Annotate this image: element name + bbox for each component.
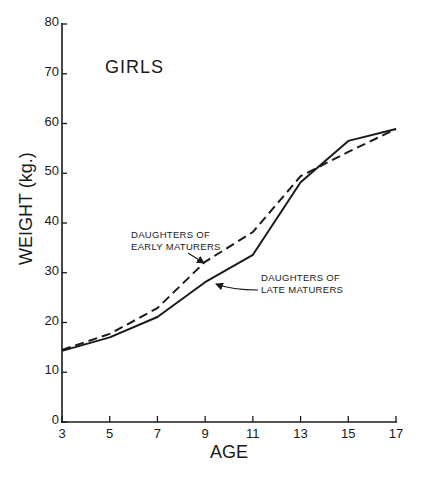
x-tick-label: 15	[341, 426, 355, 441]
x-axis: 357911131517	[58, 416, 403, 441]
x-tick-label: 7	[154, 426, 161, 441]
y-tick-label: 20	[45, 313, 59, 328]
annotation-early-line2: EARLY MATURERS	[131, 241, 221, 252]
annotation-late-line2: LATE MATURERS	[261, 284, 343, 295]
x-tick-label: 17	[389, 426, 403, 441]
x-tick-label: 3	[58, 426, 65, 441]
x-axis-ticks: 357911131517	[58, 416, 403, 441]
y-tick-label: 50	[45, 163, 59, 178]
x-tick-label: 11	[246, 426, 260, 441]
y-tick-label: 10	[45, 362, 59, 377]
annotation-late-arrow-icon	[216, 284, 258, 290]
y-axis-ticks: 01020304050607080	[45, 14, 67, 427]
annotation-early-maturers: DAUGHTERS OF EARLY MATURERS	[131, 229, 221, 263]
weight-by-age-chart: 01020304050607080 357911131517 GIRLS AGE…	[0, 0, 421, 477]
y-tick-label: 30	[45, 263, 59, 278]
x-tick-label: 5	[106, 426, 113, 441]
y-axis-title: WEIGHT (kg.)	[16, 152, 36, 265]
y-tick-label: 0	[52, 412, 59, 427]
y-tick-label: 40	[45, 213, 59, 228]
series-early-maturers-line	[62, 129, 396, 350]
x-tick-label: 13	[293, 426, 307, 441]
x-tick-label: 9	[202, 426, 209, 441]
annotation-late-maturers: DAUGHTERS OF LATE MATURERS	[216, 272, 343, 295]
y-tick-label: 70	[45, 64, 59, 79]
series-late-maturers-line	[62, 129, 396, 351]
annotation-early-line1: DAUGHTERS OF	[131, 229, 210, 240]
y-axis: 01020304050607080	[45, 14, 67, 427]
y-tick-label: 60	[45, 114, 59, 129]
x-axis-title: AGE	[210, 442, 248, 462]
y-tick-label: 80	[45, 14, 59, 29]
chart-title: GIRLS	[105, 57, 164, 77]
annotation-late-line1: DAUGHTERS OF	[261, 272, 340, 283]
annotation-early-arrow-icon	[188, 253, 204, 263]
